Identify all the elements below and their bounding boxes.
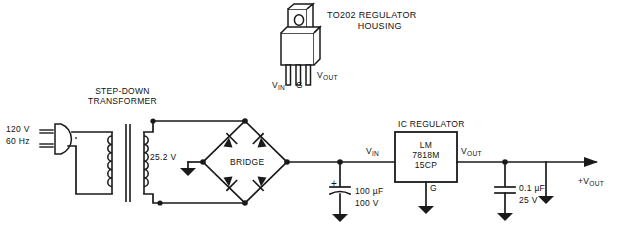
package-pin-vout-label: VOUT (317, 70, 338, 80)
node-dot-secondary-bottom (157, 200, 162, 205)
secondary-voltage-label: 25.2 V (150, 152, 176, 162)
filter-cap-value: 100 µF (355, 186, 383, 196)
mains-voltage: 120 V (6, 124, 30, 134)
ic-part-number: LM 7818M 15CP (395, 140, 457, 170)
ic-ground-pin-label: G (430, 183, 437, 193)
output-terminal-label: +VOUT (578, 176, 604, 186)
node-vin-label: VIN (366, 146, 379, 156)
wire-secondary-top (144, 121, 245, 132)
package-pin-g-label: G (296, 80, 303, 90)
transformer-label: STEP-DOWN TRANSFORMER (88, 86, 157, 106)
node-dot-secondary-top (150, 118, 155, 123)
filter-capacitor-symbol (330, 162, 350, 222)
ic-part-line1: LM (395, 140, 457, 150)
to202-package-illustration (281, 4, 320, 85)
transformer-label-line2: TRANSFORMER (88, 96, 157, 106)
output-arrowhead (584, 157, 598, 167)
filter-cap-voltage: 100 V (355, 198, 383, 208)
output-cap-label: 0.1 µF 25 V (519, 183, 545, 205)
filter-cap-label: 100 µF 100 V (355, 186, 383, 208)
to202-label-line1: TO202 REGULATOR (327, 10, 417, 21)
ic-part-line2: 7818M (395, 150, 457, 160)
circuit-diagram: TO202 REGULATOR HOUSING VIN G VOUT STEP-… (0, 0, 617, 233)
bridge-label: BRIDGE (230, 157, 264, 167)
package-pin-vin-label: VIN (272, 80, 285, 90)
ic-regulator-title: IC REGULATOR (398, 119, 465, 129)
to202-label-line2: HOUSING (327, 21, 417, 32)
output-cap-voltage: 25 V (519, 195, 545, 205)
output-capacitor-symbol (495, 162, 515, 221)
mains-supply-label: 120 V 60 Hz (6, 124, 30, 146)
ac-plug-symbol (40, 124, 76, 154)
mains-frequency: 60 Hz (6, 136, 30, 146)
node-vout-label: VOUT (461, 146, 482, 156)
filter-cap-polarity: + (331, 178, 337, 190)
to202-housing-label: TO202 REGULATOR HOUSING (327, 10, 417, 31)
output-cap-value: 0.1 µF (519, 183, 545, 193)
transformer-label-line1: STEP-DOWN (88, 86, 157, 96)
step-down-transformer-symbol (108, 124, 148, 202)
wire-plug-to-primary-bottom (68, 146, 112, 194)
ic-part-line3: 15CP (395, 160, 457, 170)
ground-symbol-bridge (180, 162, 196, 176)
